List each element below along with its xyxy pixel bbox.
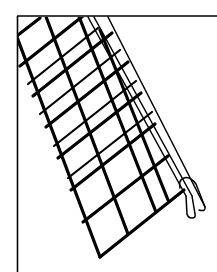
mesh-panel-illustration — [0, 0, 217, 272]
frame — [17, 16, 217, 272]
